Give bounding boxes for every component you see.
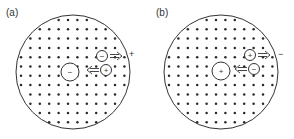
carrier-top: − — [97, 51, 108, 62]
charge-sign: + — [104, 66, 109, 75]
charge-sign: + — [248, 51, 253, 60]
central-charge: − — [61, 63, 79, 81]
carrier-top: + — [245, 50, 256, 61]
arrow-right-icon — [110, 52, 122, 60]
charge-sign: − — [68, 68, 73, 77]
charge-sign: − — [252, 65, 257, 74]
panel-a: (a)−−++ — [6, 7, 134, 129]
panel-b: (b)++−− — [156, 7, 283, 129]
central-charge: + — [212, 62, 230, 80]
panel-label: (a) — [6, 7, 18, 18]
charge-diagram: (a)−−++(b)++−− — [0, 0, 294, 139]
charge-sign: − — [100, 52, 105, 61]
carrier-bottom: − — [249, 64, 260, 75]
outside-sign: + — [129, 49, 134, 59]
outside-sign: − — [278, 49, 283, 59]
panel-label: (b) — [156, 7, 168, 18]
carrier-bottom: + — [101, 65, 112, 76]
charge-sign: + — [219, 67, 224, 76]
